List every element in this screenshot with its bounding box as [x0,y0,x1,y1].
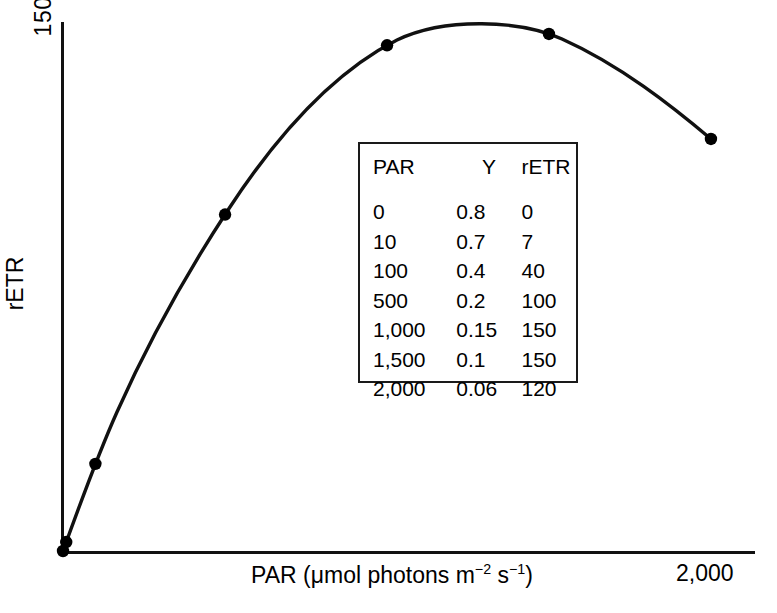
cell-y: 0.4 [456,256,521,286]
table-row: 5000.2100 [373,286,576,316]
table-row: 1,0000.15150 [373,315,576,345]
cell-par: 10 [373,227,456,257]
inset-data-table: PAR Y rETR 00.80100.771000.4405000.21001… [358,142,578,383]
cell-par: 0 [373,197,456,227]
data-point-marker [89,458,101,470]
cell-par: 1,000 [373,315,456,345]
data-point-marker [381,39,393,51]
column-header-par: PAR [373,155,456,197]
table-row: 2,0000.06120 [373,374,576,404]
table-body: 00.80100.771000.4405000.21001,0000.15150… [373,197,576,404]
table-header-row: PAR Y rETR [373,155,576,197]
data-point-marker [705,133,717,145]
x-axis-title: PAR (μmol photons m−2 s−1) [222,562,562,589]
cell-retr: 100 [522,286,576,316]
y-axis-title: rETR [2,224,29,344]
cell-par: 500 [373,286,456,316]
table-header: PAR Y rETR [373,155,576,197]
cell-retr: 120 [522,374,576,404]
column-header-y: Y [456,155,521,197]
cell-par: 1,500 [373,345,456,375]
data-point-marker [219,208,231,220]
cell-retr: 40 [522,256,576,286]
x-axis-title-exponent-1: −2 [475,561,491,577]
x-axis-line [61,551,755,554]
column-header-retr: rETR [522,155,576,197]
cell-y: 0.2 [456,286,521,316]
cell-retr: 7 [522,227,576,257]
cell-y: 0.06 [456,374,521,404]
x-axis-title-mid: s [491,562,509,588]
cell-par: 100 [373,256,456,286]
cell-retr: 0 [522,197,576,227]
cell-y: 0.1 [456,345,521,375]
cell-retr: 150 [522,345,576,375]
table-row: 00.80 [373,197,576,227]
x-axis-tick-label-2000: 2,000 [676,560,734,587]
cell-y: 0.8 [456,197,521,227]
table-row: 1,5000.1150 [373,345,576,375]
cell-par: 2,000 [373,374,456,404]
table-row: 1000.440 [373,256,576,286]
x-axis-title-prefix: PAR (μmol photons m [251,562,475,588]
cell-y: 0.15 [456,315,521,345]
data-table: PAR Y rETR 00.80100.771000.4405000.21001… [373,155,576,404]
cell-y: 0.7 [456,227,521,257]
table-row: 100.77 [373,227,576,257]
chart-figure: 150 rETR 2,000 PAR (μmol photons m−2 s−1… [0,0,777,613]
x-axis-title-suffix: ) [525,562,533,588]
cell-retr: 150 [522,315,576,345]
data-point-marker [543,28,555,40]
y-axis-line [61,22,64,554]
y-axis-tick-label-150: 150 [30,0,57,87]
x-axis-title-exponent-2: −1 [509,561,525,577]
